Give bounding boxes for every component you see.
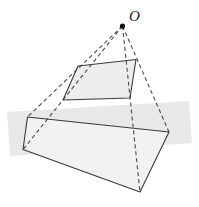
perspective-projection-figure: O (0, 0, 199, 207)
point-label-o: O (129, 8, 140, 24)
projection-center-point (120, 23, 125, 28)
upper-quadrilateral-face (63, 60, 136, 101)
figure-canvas: O (0, 0, 199, 207)
